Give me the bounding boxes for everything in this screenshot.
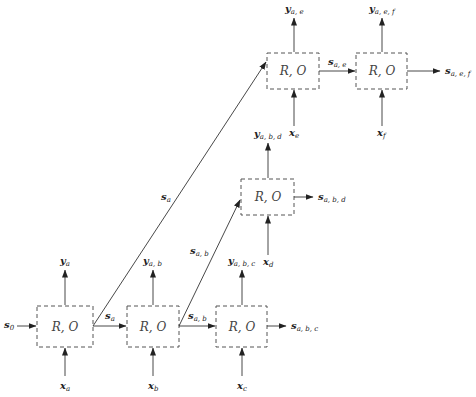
- node-e: R, O: [267, 53, 319, 89]
- label-y-abd: ya, b, d: [253, 128, 282, 141]
- label-x-c: xc: [236, 380, 247, 393]
- label-y-a: ya: [59, 255, 70, 268]
- node-c: R, O: [216, 306, 267, 347]
- node-b-label: R, O: [139, 320, 167, 334]
- label-s-abd-out: sa, b, d: [318, 191, 346, 204]
- label-x-e: xe: [288, 127, 299, 140]
- label-y-ae: ya, e: [284, 3, 304, 16]
- label-s-ab-bc: sa, b: [188, 310, 207, 323]
- label-x-a: xa: [59, 380, 70, 393]
- label-s-a-ab: sa: [105, 310, 115, 323]
- node-f-label: R, O: [368, 64, 396, 78]
- node-f: R, O: [356, 53, 407, 89]
- state-arrow-a-to-e: [93, 62, 266, 326]
- label-s-a-ae: sa: [161, 191, 171, 204]
- label-x-b: xb: [147, 380, 159, 393]
- node-e-label: R, O: [279, 64, 307, 78]
- recurrent-tree-diagram: R, O R, O R, O R, O R, O R, O xa xb x: [0, 0, 476, 397]
- node-d-label: R, O: [254, 190, 282, 204]
- label-x-d: xd: [262, 256, 274, 269]
- label-y-ab: ya, b: [142, 255, 162, 268]
- node-a: R, O: [37, 306, 93, 347]
- label-s0: s0: [4, 319, 15, 332]
- node-d: R, O: [241, 179, 294, 215]
- label-s-ae-ef: sa, e: [328, 56, 346, 69]
- label-s-aef-out: sa, e, f: [445, 65, 472, 78]
- node-a-label: R, O: [51, 320, 79, 334]
- label-s-ab-bd: sa, b: [190, 245, 209, 258]
- label-x-f: xf: [376, 127, 387, 140]
- node-b: R, O: [127, 306, 179, 347]
- label-s-abc-out: sa, b, c: [291, 320, 318, 333]
- node-c-label: R, O: [228, 320, 256, 334]
- label-y-aef: ya, e, f: [368, 3, 396, 16]
- label-y-abc: ya, b, c: [227, 255, 255, 268]
